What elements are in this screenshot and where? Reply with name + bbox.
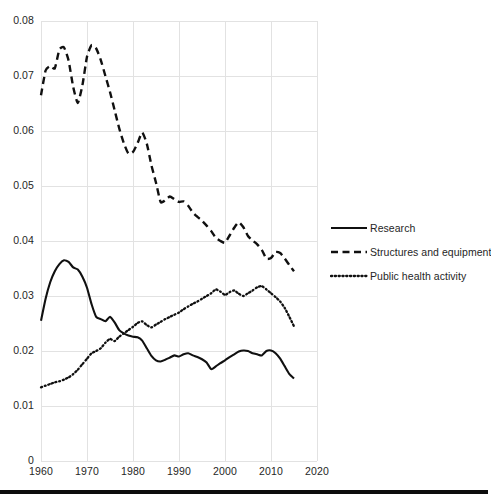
y-tick-label: 0.04 [0, 234, 34, 246]
legend-item: Public health activity [330, 264, 485, 288]
legend-item: Research [330, 216, 485, 240]
gridlines [41, 21, 317, 461]
legend-label: Research [370, 222, 415, 234]
series-line-3 [41, 286, 294, 387]
legend-label: Public health activity [370, 270, 466, 282]
legend-swatch-dashed-icon [330, 246, 368, 258]
y-tick-label: 0.07 [0, 69, 34, 81]
x-tick-label: 2010 [249, 465, 293, 477]
legend-item: Structures and equipment [330, 240, 485, 264]
y-tick-label: 0.03 [0, 289, 34, 301]
y-tick-label: 0.01 [0, 399, 34, 411]
chart-legend: ResearchStructures and equipmentPublic h… [330, 216, 485, 288]
data-series-layer [41, 45, 294, 387]
y-tick-label: 0.02 [0, 344, 34, 356]
y-tick-label: 0.05 [0, 179, 34, 191]
x-tick-label: 2000 [203, 465, 247, 477]
x-tick-label: 1960 [19, 465, 63, 477]
x-tick-label: 2020 [295, 465, 339, 477]
x-tick-label: 1990 [157, 465, 201, 477]
legend-swatch-dotted-icon [330, 270, 368, 282]
series-line-1 [41, 260, 294, 378]
bottom-rule [0, 490, 488, 494]
y-tick-label: 0.06 [0, 124, 34, 136]
y-tick-label: 0.08 [0, 14, 34, 26]
x-tick-label: 1980 [111, 465, 155, 477]
legend-swatch-solid-icon [330, 222, 368, 234]
legend-label: Structures and equipment [370, 246, 491, 258]
series-line-2 [41, 45, 294, 271]
x-tick-label: 1970 [65, 465, 109, 477]
